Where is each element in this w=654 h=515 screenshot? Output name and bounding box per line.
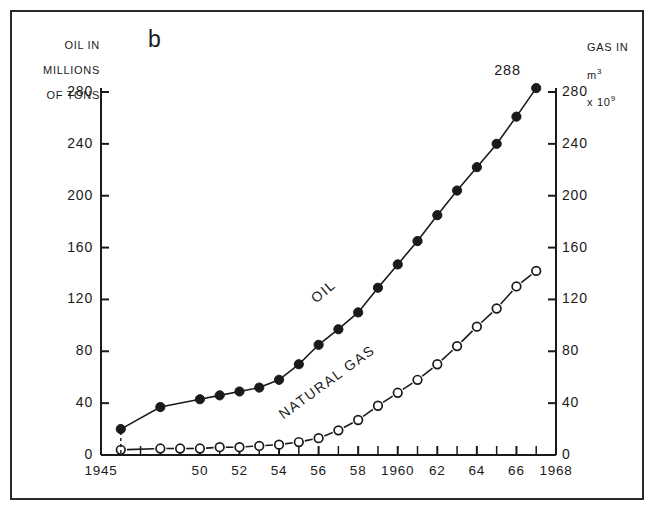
oil-series-plot [116, 84, 541, 453]
gas-data-point [196, 444, 205, 453]
oil-data-point [532, 84, 541, 93]
right-tick-label-120: 120 [562, 290, 624, 306]
oil-data-point [452, 186, 461, 195]
left-tick-label-240: 240 [31, 135, 93, 151]
oil-data-point [492, 139, 501, 148]
left-tick-label-80: 80 [31, 342, 93, 358]
gas-data-point [295, 438, 304, 447]
oil-data-point [354, 308, 363, 317]
left-tick-label-200: 200 [31, 187, 93, 203]
gas-data-point [334, 426, 343, 435]
gas-data-point [314, 434, 323, 443]
oil-data-point [294, 360, 303, 369]
gas-data-point [532, 267, 541, 276]
right-tick-label-0: 0 [562, 446, 624, 462]
gas-data-point [453, 342, 462, 351]
left-tick-label-160: 160 [31, 239, 93, 255]
gas-data-point [354, 416, 363, 425]
x-axis-ticks [101, 446, 556, 455]
oil-data-point [334, 325, 343, 334]
oil-data-point [274, 375, 283, 384]
oil-data-point [235, 387, 244, 396]
x-tick-label-1945: 1945 [71, 463, 131, 478]
panel-label: b [148, 26, 161, 53]
chart-figure: OIL IN MILLIONS OF TONS GAS IN m3 x 109 … [0, 0, 654, 515]
right-axis-title: GAS IN m3 x 109 [572, 28, 652, 121]
oil-data-point [314, 340, 323, 349]
right-tick-label-280: 280 [562, 83, 624, 99]
oil-data-point [195, 395, 204, 404]
left-axis-title: OIL IN MILLIONS OF TONS [22, 26, 100, 114]
oil-data-point [373, 283, 382, 292]
gas-data-point [156, 444, 165, 453]
gas-data-point [235, 443, 244, 452]
gas-data-point [275, 440, 284, 449]
x-tick-label-1968: 1968 [526, 463, 586, 478]
left-tick-label-120: 120 [31, 290, 93, 306]
right-tick-label-240: 240 [562, 135, 624, 151]
gas-data-point [215, 443, 224, 452]
gas-data-point [393, 388, 402, 397]
gas-data-point [413, 376, 422, 385]
left-axis-ticks [101, 92, 109, 455]
gas-data-point [176, 444, 185, 453]
oil-data-point [156, 402, 165, 411]
right-tick-label-200: 200 [562, 187, 624, 203]
left-tick-label-0: 0 [31, 446, 93, 462]
oil-data-point [215, 391, 224, 400]
gas-data-point [473, 322, 482, 331]
right-axis-ticks [548, 92, 556, 455]
oil-data-point [472, 163, 481, 172]
left-axis-title-line-2: MILLIONS [43, 64, 100, 76]
gas-data-point [433, 360, 442, 369]
gas-data-point [512, 282, 521, 291]
oil-data-point [255, 383, 264, 392]
oil-data-point [433, 211, 442, 220]
left-tick-label-280: 280 [31, 83, 93, 99]
axes [101, 88, 556, 455]
right-axis-title-line-1: GAS IN [587, 41, 629, 53]
right-tick-label-40: 40 [562, 394, 624, 410]
oil-data-point [393, 260, 402, 269]
right-tick-label-160: 160 [562, 239, 624, 255]
gas-data-point [492, 304, 501, 313]
left-axis-title-line-1: OIL IN [64, 39, 100, 51]
oil-data-point [512, 112, 521, 121]
right-tick-label-80: 80 [562, 342, 624, 358]
left-tick-label-40: 40 [31, 394, 93, 410]
oil-final-value-annotation: 288 [494, 62, 521, 78]
right-axis-title-line-2: m [587, 68, 597, 80]
right-axis-title-exponent-3: 3 [597, 67, 602, 76]
oil-data-point [413, 236, 422, 245]
oil-data-point [116, 424, 125, 433]
gas-data-point [374, 401, 383, 410]
gas-data-point [255, 442, 264, 451]
